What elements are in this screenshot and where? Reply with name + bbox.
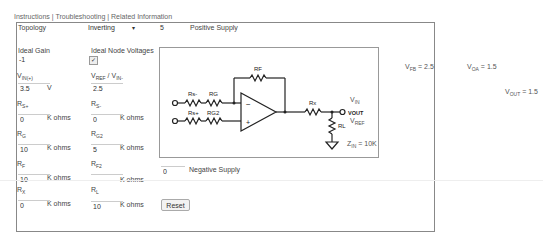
svg-text:Rs+: Rs+: [188, 110, 199, 116]
rs-plus-input[interactable]: [18, 114, 50, 124]
vout-result: VOUT = 1.5: [505, 88, 538, 97]
topology-selected-value: Inverting: [88, 24, 115, 31]
rg-input[interactable]: [18, 144, 50, 154]
reset-button[interactable]: Reset: [161, 199, 190, 211]
positive-supply-label: Positive Supply: [190, 24, 238, 31]
rg-label: RG: [17, 130, 26, 139]
rs-minus-input[interactable]: [91, 114, 123, 124]
svg-text:Rs-: Rs-: [188, 91, 197, 97]
zin-label: ZIN = 10K: [347, 140, 377, 149]
rl-input[interactable]: [91, 201, 123, 211]
svg-text:VOUT: VOUT: [348, 110, 364, 116]
circuit-schematic-icon: Rs- RG Rs+ RG2 RF Rx RL − + VOUT: [160, 48, 378, 157]
voa-result: VOA = 1.5: [467, 63, 497, 72]
nav-related-information-link[interactable]: Related Information: [111, 13, 172, 20]
vin-node-label: VIN: [350, 96, 360, 105]
rf-input[interactable]: [18, 174, 50, 184]
rx-label: RX: [17, 186, 25, 195]
rl-unit: K ohms: [120, 201, 144, 208]
negative-supply-input[interactable]: [161, 166, 185, 176]
ideal-node-voltages-checkbox[interactable]: ✓: [89, 56, 98, 65]
rx-input[interactable]: [18, 200, 50, 210]
nav-links: Instructions | Troubleshooting | Related…: [14, 13, 172, 20]
check-icon: ✓: [91, 57, 96, 63]
ideal-gain-value: -1: [19, 56, 25, 63]
rs-minus-unit: K ohms: [120, 114, 144, 121]
vref-input[interactable]: [91, 83, 123, 93]
nav-instructions-link[interactable]: Instructions: [14, 13, 50, 20]
svg-text:RG2: RG2: [207, 110, 220, 116]
rf2-label: RF2: [91, 160, 102, 169]
chevron-down-icon: ▾: [132, 24, 135, 31]
rx-unit: K ohms: [47, 200, 71, 207]
rl-label: RL: [91, 186, 99, 195]
rg2-label: RG2: [91, 130, 103, 139]
topology-label: Topology: [18, 24, 46, 31]
rf2-input[interactable]: [91, 174, 123, 184]
op-amp-circuit-diagram: Rs- RG Rs+ RG2 RF Rx RL − + VOUT VIN VRE…: [159, 47, 379, 158]
vfb-result: VFB = 2.5: [405, 63, 434, 72]
vin-plus-label: VIN(+): [17, 72, 33, 81]
vin-plus-input[interactable]: [18, 83, 50, 93]
ideal-node-voltages-label: Ideal Node Voltages: [91, 47, 154, 54]
vref-label: VREF / VIN-: [91, 72, 123, 81]
nav-troubleshooting-link[interactable]: Troubleshooting: [55, 13, 105, 20]
rs-plus-unit: K ohms: [47, 114, 71, 121]
rs-plus-label: RS+: [17, 100, 28, 109]
svg-text:Rx: Rx: [309, 100, 316, 106]
svg-text:−: −: [246, 100, 251, 109]
rs-minus-label: RS-: [91, 100, 101, 109]
topology-select[interactable]: Inverting ▾: [88, 24, 146, 31]
rf-label: RF: [17, 160, 25, 169]
rg2-unit: K ohms: [120, 144, 144, 151]
ideal-gain-label: Ideal Gain: [18, 47, 50, 54]
negative-supply-label: Negative Supply: [189, 166, 240, 173]
svg-text:+: +: [246, 119, 250, 126]
svg-text:RF: RF: [254, 66, 262, 72]
rg2-input[interactable]: [91, 144, 123, 154]
vref-node-label: VREF: [350, 117, 365, 126]
rg-unit: K ohms: [47, 144, 71, 151]
divider: [0, 180, 543, 181]
vin-plus-unit: V: [47, 84, 52, 91]
svg-text:RG: RG: [209, 91, 218, 97]
svg-text:RL: RL: [338, 123, 346, 129]
positive-supply-input[interactable]: 5: [160, 24, 164, 31]
